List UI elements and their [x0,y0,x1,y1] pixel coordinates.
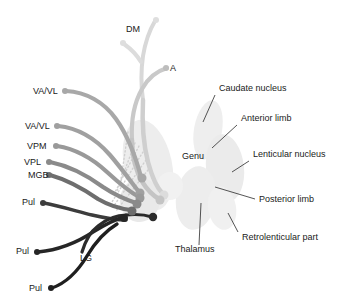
nucleus-label-mgb: MGB [28,170,49,180]
diagram-canvas: DMAVA/VLVA/VLVPMVPLMGBPulPulLGPul Caudat… [0,0,360,306]
bulb-vpm [53,143,59,149]
nucleus-label-pul3: Pul [29,283,42,293]
structure-label-lenticular: Lenticular nucleus [253,149,326,159]
bulb-vpl [46,159,52,165]
thalamic-radiations-figure: DMAVA/VLVA/VLVPMVPLMGBPulPulLGPul Caudat… [0,0,360,306]
nucleus-label-a: A [170,63,176,73]
bulb-end-mgb [128,207,137,216]
bulb-pul3 [48,285,54,291]
bulb-vavl2 [54,123,60,129]
tract-dm-branch [124,44,141,62]
fiber-tract-layer [38,21,167,288]
structure-label-retrolenticular: Retrolenticular part [242,232,319,242]
bulb-vavl1 [62,88,68,94]
structure-label-thalamus: Thalamus [175,244,215,254]
nucleus-label-vavl2: VA/VL [25,121,50,131]
nucleus-label-pul1: Pul [22,197,35,207]
nucleus-label-vpl: VPL [24,157,41,167]
bulb-end-a [156,196,165,205]
bulb-dm-b [120,40,126,46]
bulb-end-lg [149,213,157,221]
nucleus-label-lg: LG [80,253,92,263]
bulb-dm [153,17,159,23]
bulb-pul2 [34,249,40,255]
tract-pul2 [38,217,124,252]
nucleus-label-pul2: Pul [16,246,29,256]
nucleus-label-vpm: VPM [27,141,47,151]
nucleus-label-dm: DM [126,24,140,34]
structure-label-posterior-limb: Posterior limb [259,194,314,204]
structure-label-genu: Genu [182,151,204,161]
bulb-end-pul [120,214,128,222]
nucleus-label-vavl1: VA/VL [33,86,58,96]
bulb-end-vavl1 [138,174,147,183]
bulb-a [163,65,169,71]
structure-label-caudate: Caudate nucleus [219,83,287,93]
bulb-pul1 [40,200,46,206]
structure-label-anterior-limb: Anterior limb [241,113,292,123]
